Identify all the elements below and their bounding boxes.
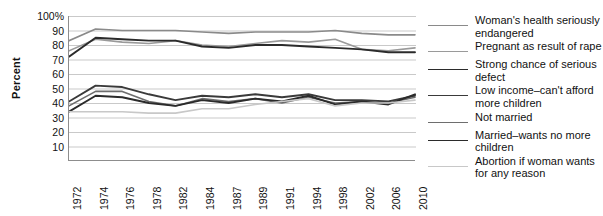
y-axis-tick-label: 30 — [52, 113, 64, 124]
legend-item-label: Strong chance of serious defect — [475, 58, 603, 83]
x-axis-tick-label: 1994 — [312, 187, 323, 210]
legend-color-swatch — [428, 89, 468, 101]
legend-item-label: Not married — [475, 111, 603, 124]
y-axis-tick-label: 10 — [52, 142, 64, 153]
legend-color-swatch — [428, 134, 468, 146]
y-axis-tick-label: 90 — [52, 26, 64, 37]
legend-color-swatch — [428, 160, 468, 172]
x-axis-tick-label: 1976 — [125, 187, 136, 210]
legend-color-swatch — [428, 63, 468, 75]
series-line — [69, 86, 415, 102]
legend-item-label: Low income–can't afford more children — [475, 84, 603, 109]
legend-item-label: Married–wants no more children — [475, 129, 603, 154]
legend-item[interactable]: Low income–can't afford more children — [428, 84, 603, 109]
legend: Woman's health seriously endangeredPregn… — [428, 14, 603, 181]
x-axis-tick-label: 1989 — [258, 187, 269, 210]
y-axis-tick-label: 70 — [52, 55, 64, 66]
x-axis-tick-label: 1982 — [178, 187, 189, 210]
legend-item-label: Pregnant as result of rape — [475, 40, 603, 53]
legend-color-swatch — [428, 116, 468, 128]
x-axis-tick-label: 1978 — [152, 187, 163, 210]
y-axis-tick-label: 20 — [52, 127, 64, 138]
plot-area — [68, 16, 415, 161]
legend-item-label: Woman's health seriously endangered — [475, 14, 603, 39]
x-axis-tick-labels: 1972197419761978198219841987198919911994… — [68, 161, 415, 216]
legend-item[interactable]: Strong chance of serious defect — [428, 58, 603, 83]
y-axis-tick-label: 80 — [52, 40, 64, 51]
x-axis-tick-label: 1991 — [285, 187, 296, 210]
x-axis-tick-label: 1972 — [72, 187, 83, 210]
legend-color-swatch — [428, 45, 468, 57]
legend-item[interactable]: Woman's health seriously endangered — [428, 14, 603, 39]
x-axis-tick-label: 1974 — [99, 187, 110, 210]
legend-item[interactable]: Married–wants no more children — [428, 129, 603, 154]
legend-item[interactable]: Pregnant as result of rape — [428, 40, 603, 57]
legend-item[interactable]: Not married — [428, 111, 603, 128]
y-axis-tick-labels: 102030405060708090100% — [14, 11, 64, 161]
x-axis-tick-label: 2010 — [418, 187, 429, 210]
series-line — [69, 38, 415, 57]
y-axis-tick-label: 40 — [52, 98, 64, 109]
y-axis-tick-label: 60 — [52, 69, 64, 80]
series-lines — [69, 16, 416, 161]
x-axis-tick-label: 1998 — [338, 187, 349, 210]
legend-item[interactable]: Abortion if woman wants for any reason — [428, 155, 603, 180]
y-axis-tick-label: 50 — [52, 84, 64, 95]
legend-color-swatch — [428, 19, 468, 31]
x-axis-tick-label: 1987 — [232, 187, 243, 210]
x-axis-tick-label: 1984 — [205, 187, 216, 210]
legend-item-label: Abortion if woman wants for any reason — [475, 155, 603, 180]
abortion-attitudes-line-chart: Percent 102030405060708090100% 197219741… — [0, 0, 603, 216]
x-axis-tick-label: 2006 — [391, 187, 402, 210]
x-axis-tick-label: 2002 — [365, 187, 376, 210]
y-axis-tick-label: 100% — [37, 11, 64, 22]
